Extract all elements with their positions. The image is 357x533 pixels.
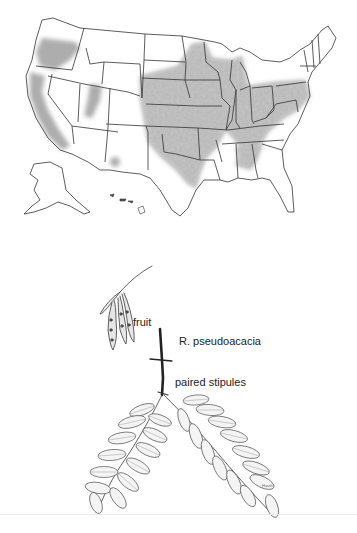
- fruit-callout: fruit: [133, 316, 151, 328]
- distribution-map: [0, 0, 357, 230]
- leaflets: [84, 394, 281, 519]
- alaska-outline: [24, 162, 90, 214]
- species-label: R. pseudoacacia: [179, 335, 261, 347]
- range-texture: [140, 42, 310, 188]
- species-illustration: fruit R. pseudoacacia paired stipules Ha…: [0, 230, 357, 533]
- fruit-stem: [120, 266, 152, 292]
- us-map-graphic: [0, 0, 357, 230]
- stipules-callout: paired stipules: [175, 376, 246, 388]
- hawaii-outline: [110, 194, 145, 214]
- bottom-divider: [0, 514, 357, 515]
- artist-signature: Hauth: [262, 483, 273, 488]
- seed-pods: [100, 292, 134, 350]
- twig: [160, 329, 163, 395]
